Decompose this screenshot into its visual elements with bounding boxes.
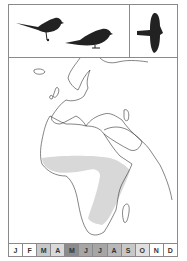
range-area — [42, 156, 130, 225]
europe-africa-map — [0, 0, 187, 261]
month-cell: A — [108, 244, 122, 256]
month-cell: O — [136, 244, 150, 256]
month-cell: S — [122, 244, 136, 256]
month-cell: D — [164, 244, 177, 256]
month-cell: J — [79, 244, 93, 256]
month-cell: F — [23, 244, 37, 256]
month-cell: M — [37, 244, 51, 256]
month-cell: J — [93, 244, 107, 256]
month-cell: M — [65, 244, 79, 256]
month-cell: J — [9, 244, 23, 256]
month-bar: J F M A M J J A S O N D — [8, 243, 178, 257]
month-cell: A — [51, 244, 65, 256]
month-cell: N — [150, 244, 164, 256]
